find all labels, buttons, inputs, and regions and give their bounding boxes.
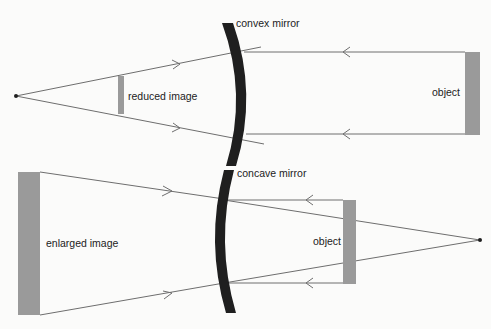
convex-mirror-panel [14, 23, 480, 166]
mirror-diagram [0, 0, 491, 329]
object-label-top: object [432, 87, 460, 98]
enlarged-image-bar [18, 172, 40, 315]
object-bar-top [465, 52, 480, 135]
object-bar-bottom [343, 200, 356, 284]
focal-point-dot [478, 238, 482, 242]
concave-mirror-label: concave mirror [237, 168, 306, 179]
object-label-bottom: object [313, 236, 341, 247]
image-ray-upper [40, 172, 224, 199]
convex-mirror [222, 23, 246, 166]
image-ray-lower [40, 283, 224, 315]
arrow-right-icon [172, 123, 180, 132]
focal-point-dot [14, 94, 18, 98]
reduced-image-label: reduced image [128, 91, 197, 102]
virtual-ray-lower [16, 96, 264, 144]
concave-mirror [215, 170, 236, 313]
convex-mirror-label: convex mirror [236, 18, 300, 29]
enlarged-image-label: enlarged image [46, 238, 118, 249]
arrow-right-icon [163, 291, 172, 299]
virtual-ray-upper [16, 47, 261, 96]
reduced-image-bar [118, 76, 124, 114]
